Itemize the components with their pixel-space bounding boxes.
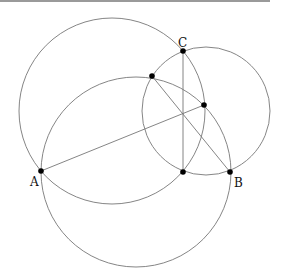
segment-A-P2 xyxy=(41,105,204,171)
point-p3 xyxy=(180,169,186,175)
label-b: B xyxy=(234,176,243,190)
point-p1 xyxy=(149,73,155,79)
point-b xyxy=(227,169,233,175)
geometry-diagram: A B C xyxy=(0,0,281,279)
label-a: A xyxy=(29,175,39,189)
circles-group xyxy=(19,18,270,267)
point-a xyxy=(38,168,44,174)
label-c: C xyxy=(178,36,187,50)
circle-right xyxy=(142,47,270,175)
point-p2 xyxy=(201,102,207,108)
segments-group xyxy=(41,51,230,172)
points-group xyxy=(38,48,233,175)
